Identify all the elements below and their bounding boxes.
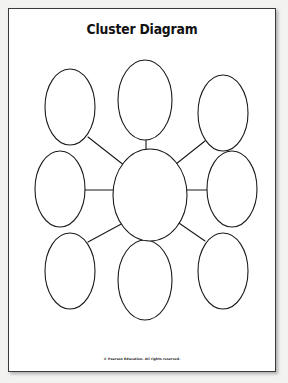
bubble-middle-right[interactable] [207,151,257,227]
bubble-top-left-outline[interactable] [45,69,95,145]
connector-top-left [88,137,125,166]
bubble-middle-left[interactable] [35,151,85,227]
cluster-diagram-canvas [9,9,275,371]
bubble-bottom-left-outline[interactable] [45,233,95,309]
copyright-notice: © Pearson Education. All rights reserved… [9,357,275,361]
bubble-bottom-center-outline[interactable] [118,240,172,320]
bubble-middle-left-outline[interactable] [35,151,85,227]
center-bubble[interactable] [113,149,187,241]
bubble-middle-right-outline[interactable] [207,151,257,227]
bubble-bottom-right[interactable] [198,233,248,309]
connector-bottom-left [88,222,125,242]
bubble-bottom-center[interactable] [118,240,172,320]
bubble-bottom-left[interactable] [45,233,95,309]
cluster-diagram [9,9,275,371]
bubble-top-right[interactable] [198,75,248,151]
center-bubble-outline[interactable] [113,149,187,241]
bubble-bottom-right-outline[interactable] [198,233,248,309]
worksheet-sheet: Cluster Diagram © Pearson Education. All… [8,8,276,372]
bubble-top-center[interactable] [118,60,172,140]
worksheet-screen: Cluster Diagram © Pearson Education. All… [0,0,288,383]
bubble-top-center-outline[interactable] [118,60,172,140]
bubble-top-right-outline[interactable] [198,75,248,151]
connector-top-right [176,141,205,164]
connector-bottom-right [176,221,205,241]
bubble-top-left[interactable] [45,69,95,145]
bubble-layer [35,60,257,320]
